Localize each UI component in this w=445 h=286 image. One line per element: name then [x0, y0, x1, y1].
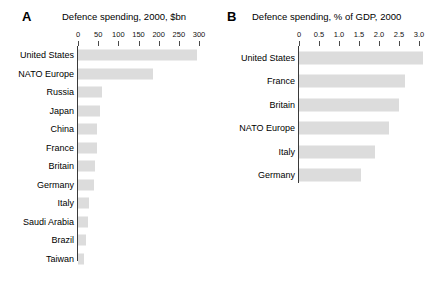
- bar-row: Germany: [299, 164, 419, 188]
- panel-b-plot: 00.51.01.52.02.53.0 United StatesFranceB…: [299, 33, 419, 183]
- bar: [299, 169, 361, 182]
- category-label: NATO Europe: [18, 69, 74, 78]
- bar: [78, 216, 88, 227]
- bar: [78, 161, 95, 172]
- panel-a: A Defence spending, 2000, $bn 0501001502…: [0, 0, 222, 286]
- category-label: Britain: [269, 100, 295, 109]
- tick-label: 50: [94, 31, 102, 39]
- panel-a-letter: A: [22, 10, 31, 23]
- bar-row: Taiwan: [78, 250, 200, 269]
- tick-label: 1.5: [354, 31, 364, 39]
- bar-row: China: [78, 120, 200, 139]
- category-label: NATO Europe: [239, 124, 295, 133]
- bar: [78, 179, 94, 190]
- category-label: France: [46, 143, 74, 152]
- tick-label: 0: [297, 31, 301, 39]
- bar-row: France: [78, 139, 200, 158]
- panel-b-title: Defence spending, % of GDP, 2000: [252, 12, 401, 22]
- tick-label: 2.5: [394, 31, 404, 39]
- bar-row: United States: [78, 46, 200, 65]
- bar: [78, 105, 100, 116]
- category-label: Russia: [46, 88, 74, 97]
- tick-label: 0: [76, 31, 80, 39]
- tick-label: 200: [152, 31, 165, 39]
- panel-b: B Defence spending, % of GDP, 2000 00.51…: [222, 0, 445, 286]
- category-label: Taiwan: [46, 254, 74, 263]
- panel-b-letter: B: [227, 10, 236, 23]
- panel-b-bars: United StatesFranceBritainNATO EuropeIta…: [299, 46, 419, 187]
- panel-a-title: Defence spending, 2000, $bn: [62, 12, 186, 22]
- tick-mark: [419, 41, 420, 46]
- bar: [78, 87, 102, 98]
- tick-label: 2.0: [374, 31, 384, 39]
- bar: [299, 51, 423, 64]
- bar-row: Britain: [78, 157, 200, 176]
- bar: [78, 68, 153, 79]
- category-label: United States: [20, 51, 74, 60]
- category-label: Saudi Arabia: [23, 217, 74, 226]
- category-label: Germany: [258, 171, 295, 180]
- category-label: United States: [241, 53, 295, 62]
- bar: [78, 124, 97, 135]
- bar: [78, 142, 97, 153]
- bar-row: Japan: [78, 102, 200, 121]
- panel-b-x-axis-ticks: 00.51.01.52.02.53.0: [299, 33, 419, 45]
- bar-row: Russia: [78, 83, 200, 102]
- category-label: Japan: [49, 106, 74, 115]
- defence-spending-figure: A Defence spending, 2000, $bn 0501001502…: [0, 0, 445, 286]
- category-label: Britain: [48, 162, 74, 171]
- bar-row: Italy: [299, 140, 419, 164]
- bar-row: Germany: [78, 176, 200, 195]
- panel-a-bars: United StatesNATO EuropeRussiaJapanChina…: [78, 46, 200, 268]
- tick-label: 0.5: [314, 31, 324, 39]
- category-label: Germany: [37, 180, 74, 189]
- bar: [78, 235, 86, 246]
- bar-row: NATO Europe: [299, 117, 419, 141]
- category-label: France: [267, 77, 295, 86]
- bar-row: United States: [299, 46, 419, 70]
- bar: [299, 98, 399, 111]
- tick-label: 1.0: [334, 31, 344, 39]
- bar-row: Britain: [299, 93, 419, 117]
- tick-label: 100: [112, 31, 125, 39]
- tick-label: 150: [132, 31, 145, 39]
- bar-row: Saudi Arabia: [78, 213, 200, 232]
- bar: [299, 75, 405, 88]
- panel-a-plot: 050100150200250300 United StatesNATO Eur…: [78, 33, 200, 261]
- bar-row: France: [299, 70, 419, 94]
- tick-label: 300: [193, 31, 206, 39]
- category-label: China: [50, 125, 74, 134]
- bar-row: Brazil: [78, 231, 200, 250]
- bar-row: NATO Europe: [78, 65, 200, 84]
- bar-row: Italy: [78, 194, 200, 213]
- bar: [78, 50, 197, 61]
- tick-label: 3.0: [414, 31, 424, 39]
- category-label: Italy: [57, 199, 74, 208]
- bar: [299, 145, 375, 158]
- category-label: Italy: [278, 147, 295, 156]
- panel-a-x-axis-ticks: 050100150200250300: [78, 33, 200, 45]
- bar: [78, 198, 89, 209]
- tick-label: 250: [173, 31, 186, 39]
- category-label: Brazil: [51, 236, 74, 245]
- bar: [78, 253, 84, 264]
- bar: [299, 122, 389, 135]
